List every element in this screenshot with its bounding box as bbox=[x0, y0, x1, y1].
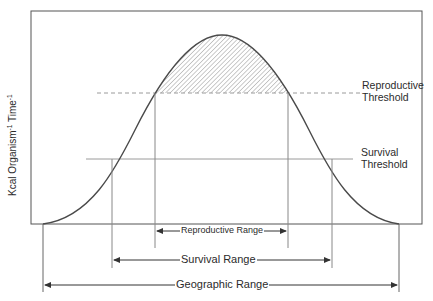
y-axis-label-text: Kcal Organism bbox=[7, 130, 18, 196]
survival-threshold-label-line1: Survival bbox=[361, 146, 408, 158]
y-axis-label-text-2: Time bbox=[7, 100, 18, 124]
y-axis-superscript-2: -1 bbox=[6, 94, 13, 100]
reproductive-threshold-label: Reproductive Threshold bbox=[362, 79, 424, 103]
y-axis-superscript: -1 bbox=[6, 125, 13, 131]
reproductive-threshold-label-line2: Threshold bbox=[362, 91, 424, 103]
y-axis-label: Kcal Organism-1 Time-1 bbox=[6, 94, 19, 196]
reproductive-range-label: Reproductive Range bbox=[180, 225, 264, 235]
survival-threshold-label: Survival Threshold bbox=[361, 146, 408, 170]
survival-threshold-label-line2: Threshold bbox=[361, 158, 408, 170]
geographic-range-label: Geographic Range bbox=[175, 278, 269, 291]
reproductive-threshold-label-line1: Reproductive bbox=[362, 79, 424, 91]
tolerance-diagram: Kcal Organism-1 Time-1 Reproductive Thre… bbox=[0, 0, 433, 301]
survival-range-label: Survival Range bbox=[180, 253, 257, 266]
